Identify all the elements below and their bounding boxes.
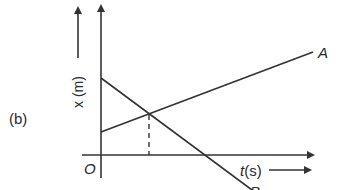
- line-b: [101, 78, 252, 190]
- y-axis-label-group: x (m): [70, 8, 86, 108]
- line-a: [101, 52, 313, 132]
- position-time-graph: (b) x (m) O A B t(s): [0, 0, 350, 190]
- t-axis-label-group: t(s): [240, 162, 310, 179]
- origin-label: O: [84, 160, 96, 177]
- panel-label: (b): [9, 110, 27, 127]
- t-axis-label: t(s): [240, 162, 262, 179]
- y-axis-label: x (m): [70, 76, 86, 108]
- line-a-label: A: [317, 44, 328, 61]
- line-b-label: B: [250, 183, 260, 190]
